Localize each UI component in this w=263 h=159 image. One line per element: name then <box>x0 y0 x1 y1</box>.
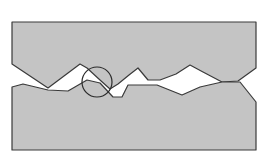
diagram-canvas <box>0 0 263 159</box>
lower-surface-body <box>12 80 256 150</box>
contact-diagram <box>0 0 263 159</box>
